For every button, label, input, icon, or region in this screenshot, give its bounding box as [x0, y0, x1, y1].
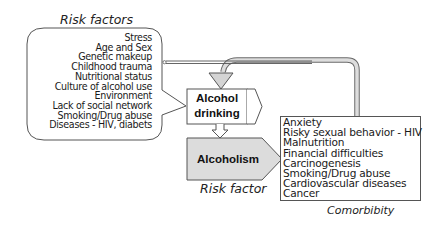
alcohol-drinking-arrow-tab [247, 89, 262, 124]
risk-factors-list: Stress Age and Sex Genetic makeup Childh… [30, 33, 152, 130]
risk-factor-item: Diseases - HIV, diabets [30, 120, 152, 130]
comorbidity-list: Anxiety Risky sexual behavior - HIV Maln… [283, 117, 422, 199]
alcohol-drinking-label: Alcohol drinking [187, 91, 247, 121]
risk-factors-title: Risk factors [60, 12, 133, 27]
comorbidity-item: Cancer [283, 188, 422, 198]
small-down-arrow-icon [212, 124, 228, 138]
alcohol-drinking-line1: Alcohol [187, 91, 247, 106]
comorbidity-title: Comorbibity [327, 204, 394, 217]
alcoholism-label: Alcoholism [190, 152, 266, 166]
risk-factor-caption: Risk factor [200, 181, 267, 196]
alcohol-drinking-line2: drinking [187, 106, 247, 121]
down-arrowhead-icon [209, 73, 233, 89]
